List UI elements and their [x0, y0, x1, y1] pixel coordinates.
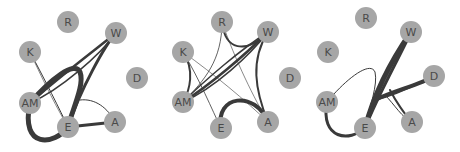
- node-d: D: [126, 67, 148, 89]
- edge: [30, 52, 68, 127]
- node-k: K: [19, 41, 41, 63]
- node-label: K: [179, 46, 187, 59]
- node-label: E: [65, 121, 72, 134]
- node-w: W: [257, 21, 279, 43]
- node-label: D: [286, 72, 294, 85]
- node-label: K: [26, 46, 34, 59]
- node-label: AM: [21, 97, 38, 110]
- graph-panel-1: RWKDAMEA: [19, 11, 148, 140]
- node-label: D: [430, 70, 438, 83]
- node-label: R: [218, 16, 226, 29]
- node-a: A: [401, 111, 423, 133]
- node-label: R: [64, 16, 72, 29]
- node-w: W: [400, 21, 422, 43]
- node-am: AM: [172, 91, 194, 113]
- node-label: D: [133, 72, 141, 85]
- node-label: K: [324, 46, 332, 59]
- node-a: A: [104, 111, 126, 133]
- edge: [183, 52, 268, 122]
- node-e: E: [57, 116, 79, 138]
- node-w: W: [105, 22, 127, 44]
- node-label: W: [111, 27, 122, 40]
- node-label: R: [362, 12, 370, 25]
- node-k: K: [172, 41, 194, 63]
- node-am: AM: [316, 91, 338, 113]
- node-e: E: [354, 117, 376, 139]
- node-label: A: [264, 116, 272, 129]
- node-label: A: [408, 116, 416, 129]
- edge: [30, 33, 116, 103]
- node-label: AM: [318, 96, 335, 109]
- node-r: R: [57, 11, 79, 33]
- node-label: E: [362, 122, 369, 135]
- node-a: A: [257, 111, 279, 133]
- node-label: A: [111, 116, 119, 129]
- graph-panel-3: RWKDAMEA: [316, 7, 445, 139]
- network-diagram: RWKDAMEARWKDAMEARWKDAMEA: [0, 0, 460, 152]
- node-d: D: [423, 65, 445, 87]
- graph-panel-2: RWKDAMEA: [172, 11, 301, 139]
- edges: [183, 22, 268, 128]
- node-label: W: [406, 26, 417, 39]
- node-r: R: [211, 11, 233, 33]
- node-e: E: [210, 117, 232, 139]
- node-d: D: [279, 67, 301, 89]
- node-label: E: [218, 122, 225, 135]
- node-k: K: [317, 41, 339, 63]
- node-label: AM: [174, 96, 191, 109]
- node-r: R: [355, 7, 377, 29]
- node-label: W: [263, 26, 274, 39]
- node-am: AM: [19, 92, 41, 114]
